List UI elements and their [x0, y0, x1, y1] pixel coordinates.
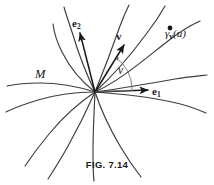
- geodesic-curve-upper-right-inner: [95, 6, 165, 92]
- geodesic-curve-right-lower: [95, 92, 206, 113]
- figure-container: e2 e1 v v M γv(u) FIG. 7.14: [0, 0, 214, 185]
- angle-v-label: v: [118, 65, 123, 77]
- geodesic-curve-up-steep: [95, 5, 129, 92]
- basis-vector-e2-label: e2: [72, 18, 81, 31]
- basis-vector-e1-label: e1: [152, 86, 161, 99]
- tangent-vector-v-label: v: [116, 31, 122, 42]
- geodesic-gamma-label: γv(u): [165, 28, 186, 41]
- geodesic-curve-left-descend: [25, 92, 95, 166]
- geodesic-curve-left-upper: [7, 83, 95, 92]
- figure-caption: FIG. 7.14: [0, 159, 214, 170]
- manifold-label: M: [35, 68, 45, 81]
- geodesic-curve-upper-left-sweep: [53, 24, 95, 92]
